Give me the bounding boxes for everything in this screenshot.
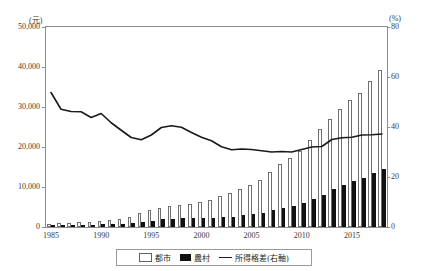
legend-label-rural: 農村 [194,252,210,263]
income-gap-polyline [51,93,382,153]
x-tick-label: 2005 [232,230,272,241]
right-tick-label: 60 [391,72,421,82]
x-tick-label: 2015 [332,230,372,241]
right-tick-label: 80 [391,22,421,32]
chart-legend: 都市 農村 所得格差(右軸) [116,249,312,266]
legend-label-income-gap: 所得格差(右軸) [235,252,288,263]
left-tick-label: 40,000 [2,62,40,72]
x-tick-label: 2010 [282,230,322,241]
income-gap-line [46,27,387,227]
legend-item-urban: 都市 [139,252,171,263]
x-tick-label: 1985 [31,230,71,241]
legend-item-rural: 農村 [180,252,210,263]
x-tick-label: 1990 [81,230,121,241]
right-tick-label: 20 [391,172,421,182]
left-tick-label: 20,000 [2,142,40,152]
line-swatch-icon [219,257,232,258]
x-tick-label: 2000 [181,230,221,241]
white-bar-swatch-icon [139,253,152,262]
black-bar-swatch-icon [180,254,191,261]
legend-item-income-gap: 所得格差(右軸) [219,252,288,263]
left-tick-label: 50,000 [2,22,40,32]
x-tick-label: 1995 [131,230,171,241]
legend-label-urban: 都市 [155,252,171,263]
income-gap-chart: (元) (%) 010,00020,00030,00040,00050,000 … [0,0,423,271]
left-tick-label: 30,000 [2,102,40,112]
plot-area [45,26,388,228]
right-tick-label: 0 [391,222,421,232]
left-tick-label: 10,000 [2,182,40,192]
right-tick-label: 40 [391,122,421,132]
